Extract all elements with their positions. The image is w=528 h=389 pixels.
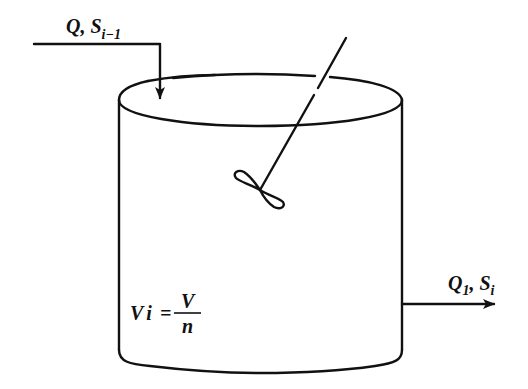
tank <box>119 74 402 373</box>
volume-numerator: V <box>181 290 196 312</box>
tank-top-rim-back-right <box>330 77 402 100</box>
volume-lhs: Vi <box>130 302 152 324</box>
volume-denominator: n <box>182 315 193 337</box>
tank-top-rim-left <box>119 81 148 100</box>
outlet-label: Q1, Si <box>448 272 495 298</box>
volume-formula: Vi = V n <box>130 290 201 337</box>
inlet-arrow <box>34 44 160 98</box>
stirrer-shaft-lower <box>260 95 314 190</box>
cstr-diagram: Q, Si−1 Q1, Si Vi = V n <box>0 0 528 389</box>
tank-top-rim-front <box>119 100 402 126</box>
volume-equals: = <box>160 302 171 324</box>
stirrer-shaft-upper <box>318 38 346 88</box>
inlet-label: Q, Si−1 <box>66 15 121 42</box>
tank-bottom <box>119 350 402 373</box>
impeller-icon <box>235 171 284 208</box>
